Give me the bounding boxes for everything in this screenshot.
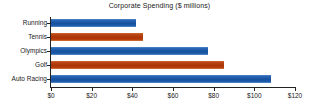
- category-label-wrap: Running: [0, 19, 47, 33]
- x-axis-tick: [254, 88, 255, 91]
- x-axis-tick: [295, 88, 296, 91]
- bar-row: [51, 59, 295, 73]
- category-label-wrap: Golf: [0, 61, 47, 75]
- bar-tennis[interactable]: [51, 33, 143, 41]
- category-label-auto-racing: Auto Racing: [1, 75, 47, 82]
- x-axis-label: $100: [234, 92, 274, 99]
- y-axis-tick: [47, 23, 50, 24]
- bar-row: [51, 31, 295, 45]
- x-axis-label: $80: [194, 92, 234, 99]
- y-axis-tick: [47, 65, 50, 66]
- x-axis-tick: [214, 88, 215, 91]
- x-axis-label: $120: [275, 92, 315, 99]
- chart-title: Corporate Spending ($ millions): [0, 2, 319, 9]
- category-label-wrap: Tennis: [0, 33, 47, 47]
- bar-row: [51, 45, 295, 59]
- y-axis-tick: [47, 37, 50, 38]
- x-axis-tick: [51, 88, 52, 91]
- bar-olympics[interactable]: [51, 47, 208, 55]
- y-axis-tick: [47, 51, 50, 52]
- category-label-wrap: Olympics: [0, 47, 47, 61]
- bar-row: [51, 17, 295, 31]
- x-axis-tick: [173, 88, 174, 91]
- bar-row: [51, 73, 295, 87]
- bar-auto-racing[interactable]: [51, 75, 271, 83]
- x-axis-label: $20: [72, 92, 112, 99]
- chart-container: Corporate Spending ($ millions) RunningT…: [0, 0, 319, 105]
- x-axis-tick: [92, 88, 93, 91]
- x-axis-label: $0: [31, 92, 71, 99]
- category-label-olympics: Olympics: [1, 47, 47, 54]
- x-axis-label: $40: [112, 92, 152, 99]
- category-label-wrap: Auto Racing: [0, 75, 47, 89]
- bar-golf[interactable]: [51, 61, 224, 69]
- category-label-golf: Golf: [1, 61, 47, 68]
- x-axis-label: $60: [153, 92, 193, 99]
- x-axis-tick: [132, 88, 133, 91]
- bar-running[interactable]: [51, 19, 136, 27]
- category-label-tennis: Tennis: [1, 33, 47, 40]
- category-label-running: Running: [1, 19, 47, 26]
- y-axis-tick: [47, 79, 50, 80]
